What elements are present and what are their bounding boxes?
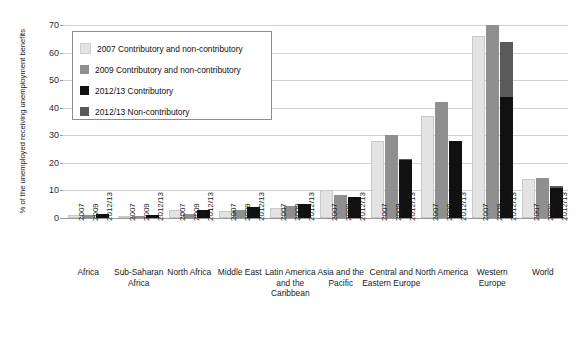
bar-group	[371, 25, 412, 218]
y-tick-mark-40	[60, 108, 63, 109]
x-period-label: 2009	[445, 203, 454, 221]
bar-segment-non-contributory	[500, 42, 513, 97]
legend-swatch-icon	[80, 107, 89, 116]
x-period-label: 2012/13	[257, 192, 266, 221]
bar-2009	[435, 102, 448, 218]
y-tick-label-30: 30	[49, 130, 59, 140]
chart-legend: 2007 Contributory and non-contributory20…	[72, 31, 272, 120]
x-period-label: 2012/13	[105, 192, 114, 221]
x-period-label: 2012/13	[509, 192, 518, 221]
bar-group	[320, 25, 361, 218]
x-period-label: 2007	[229, 203, 238, 221]
y-tick-mark-30	[60, 135, 63, 136]
y-tick-label-10: 10	[49, 185, 59, 195]
x-period-label: 2009	[546, 203, 555, 221]
legend-item: 2012/13 Contributory	[80, 80, 264, 101]
y-tick-mark-20	[60, 163, 63, 164]
y-tick-label-0: 0	[54, 213, 59, 223]
legend-swatch-icon	[80, 86, 89, 95]
legend-item-label: 2012/13 Non-contributory	[95, 107, 190, 117]
x-category-label: World	[514, 267, 573, 278]
x-period-label: 2009	[192, 203, 201, 221]
y-tick-mark-60	[60, 53, 63, 54]
x-period-label: 2012/13	[156, 192, 165, 221]
y-tick-mark-70	[60, 25, 63, 26]
x-period-label: 2009	[243, 203, 252, 221]
x-period-label: 2009	[91, 203, 100, 221]
x-period-label: 2007	[178, 203, 187, 221]
bar-2009	[486, 25, 499, 218]
legend-item-label: 2012/13 Contributory	[95, 86, 173, 96]
bar-segment-non-contributory	[550, 186, 563, 187]
bar-group	[421, 25, 462, 218]
bar-segment-non-contributory	[399, 159, 412, 160]
x-period-label: 2009	[344, 203, 353, 221]
legend-item: 2009 Contributory and non-contributory	[80, 59, 264, 80]
y-axis-title: % of the unemployed receiving unemployme…	[18, 26, 29, 216]
bar-2007	[472, 36, 485, 218]
bar-group	[472, 25, 513, 218]
bar-group	[522, 25, 563, 218]
x-period-label: 2012/13	[459, 192, 468, 221]
x-period-label: 2009	[293, 203, 302, 221]
y-tick-label-60: 60	[49, 48, 59, 58]
y-tick-label-40: 40	[49, 103, 59, 113]
legend-swatch-icon	[80, 65, 89, 74]
y-tick-mark-10	[60, 190, 63, 191]
x-period-label: 2009	[142, 203, 151, 221]
y-tick-label-70: 70	[49, 20, 59, 30]
legend-item-label: 2009 Contributory and non-contributory	[95, 65, 241, 75]
x-period-label: 2009	[495, 203, 504, 221]
x-period-label: 2007	[431, 203, 440, 221]
legend-item-label: 2007 Contributory and non-contributory	[97, 44, 243, 54]
y-tick-mark-0	[60, 218, 63, 219]
x-period-label: 2012/13	[307, 192, 316, 221]
x-period-label: 2007	[481, 203, 490, 221]
x-period-label: 2012/13	[358, 192, 367, 221]
x-period-label: 2007	[330, 203, 339, 221]
x-period-label: 2012/13	[206, 192, 215, 221]
x-period-label: 2009	[394, 203, 403, 221]
y-tick-label-20: 20	[49, 158, 59, 168]
legend-swatch-icon	[80, 43, 91, 54]
x-period-label: 2007	[128, 203, 137, 221]
y-tick-label-50: 50	[49, 75, 59, 85]
x-period-label: 2007	[380, 203, 389, 221]
x-period-label: 2007	[532, 203, 541, 221]
legend-item: 2007 Contributory and non-contributory	[80, 38, 264, 59]
bar-group	[270, 25, 311, 218]
y-tick-mark-50	[60, 80, 63, 81]
chart-container: % of the unemployed receiving unemployme…	[0, 0, 576, 337]
x-period-label: 2012/13	[408, 192, 417, 221]
x-period-label: 2012/13	[560, 192, 569, 221]
x-period-label: 2007	[77, 203, 86, 221]
legend-item: 2012/13 Non-contributory	[80, 101, 264, 122]
x-period-label: 2007	[279, 203, 288, 221]
